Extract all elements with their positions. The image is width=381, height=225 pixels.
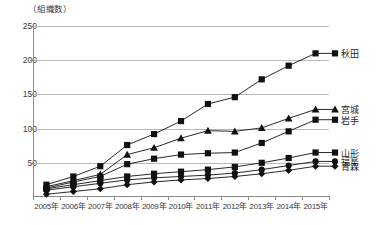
- x-tick-label: 2010年: [169, 200, 193, 211]
- data-point-square-marker: [286, 155, 292, 161]
- x-tick-label: 2009年: [142, 200, 166, 211]
- data-point-triangle-marker: [285, 114, 293, 121]
- x-tick-label: 2013年: [250, 200, 274, 211]
- data-point-diamond-marker: [285, 167, 292, 174]
- series-label-青森: 青森: [341, 160, 359, 173]
- x-tick-mark: [329, 196, 330, 200]
- data-point-square-marker: [259, 140, 265, 146]
- data-point-square-marker: [151, 131, 157, 137]
- data-point-square-marker: [205, 101, 211, 107]
- x-tick-label: 2005年: [34, 200, 58, 211]
- series-lines-layer: [33, 26, 329, 197]
- series-秋田: [43, 50, 338, 188]
- data-point-square-marker: [312, 149, 318, 155]
- series-legend-marker: [332, 117, 338, 123]
- x-tick-label: 2014年: [276, 200, 300, 211]
- data-point-square-marker: [178, 151, 184, 157]
- data-point-square-marker: [124, 161, 130, 167]
- data-point-square-marker: [312, 117, 318, 123]
- data-point-square-marker: [178, 118, 184, 124]
- data-point-square-marker: [124, 142, 130, 148]
- data-point-triangle-marker: [150, 144, 158, 151]
- series-福島: [43, 158, 338, 193]
- data-point-square-marker: [286, 128, 292, 134]
- x-tick-label: 2006年: [61, 200, 85, 211]
- data-point-square-marker: [232, 94, 238, 100]
- data-point-square-marker: [312, 50, 318, 56]
- x-tick-label: 2012年: [223, 200, 247, 211]
- data-point-triangle-marker: [204, 127, 212, 134]
- series-label-岩手: 岩手: [341, 113, 359, 126]
- chart-root: （組織数） 25020015010050 2005年2006年2007年2008…: [0, 0, 381, 225]
- x-tick-label: 2015年: [303, 200, 327, 211]
- data-point-square-marker: [205, 167, 211, 173]
- x-tick-label: 2007年: [88, 200, 112, 211]
- series-legend-marker: [332, 149, 338, 155]
- data-point-square-marker: [232, 149, 238, 155]
- data-point-diamond-marker: [97, 185, 104, 192]
- data-point-diamond-marker: [124, 181, 131, 188]
- series-青森: [43, 163, 339, 198]
- series-label-秋田: 秋田: [341, 47, 359, 60]
- series-宮城: [43, 106, 339, 190]
- plot-area: [33, 26, 329, 197]
- data-point-square-marker: [205, 150, 211, 156]
- y-axis-unit-label: （組織数）: [28, 2, 72, 14]
- data-point-square-marker: [232, 164, 238, 170]
- x-tick-label: 2011年: [196, 200, 220, 211]
- data-point-square-marker: [97, 163, 103, 169]
- series-legend-marker: [332, 50, 338, 56]
- data-point-triangle-marker: [258, 124, 266, 131]
- data-point-square-marker: [151, 156, 157, 162]
- data-point-diamond-marker: [312, 163, 319, 170]
- data-point-square-marker: [286, 63, 292, 69]
- data-point-square-marker: [259, 76, 265, 82]
- data-point-diamond-marker: [70, 188, 77, 195]
- series-岩手: [43, 117, 338, 192]
- data-point-square-marker: [259, 160, 265, 166]
- x-tick-label: 2008年: [115, 200, 139, 211]
- series-legend-marker: [331, 163, 338, 170]
